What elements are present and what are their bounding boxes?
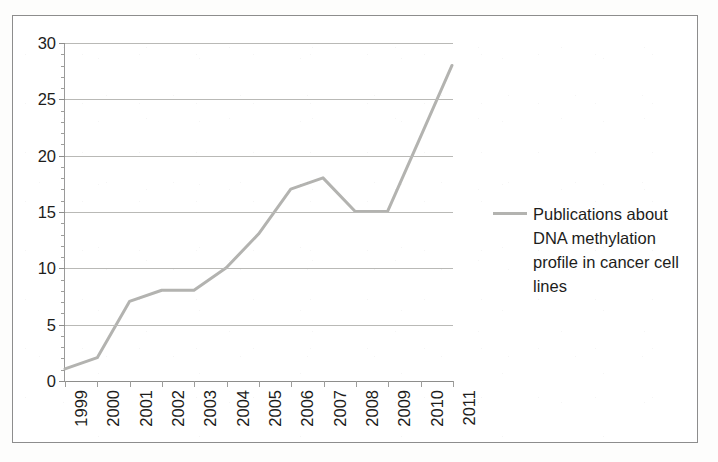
y-axis-major-tick xyxy=(59,325,65,326)
x-axis-tick-label: 2009 xyxy=(395,390,414,427)
legend-entry-label: Publications about DNA methylation profi… xyxy=(533,202,691,298)
y-axis-minor-tick xyxy=(61,167,65,168)
gridline-y-5 xyxy=(65,325,453,326)
x-axis-tick-label: 2002 xyxy=(169,390,188,427)
y-axis-minor-tick xyxy=(61,111,65,112)
y-axis-minor-tick xyxy=(61,122,65,123)
y-axis-major-tick xyxy=(59,43,65,44)
y-axis-minor-tick xyxy=(61,336,65,337)
x-axis-tick xyxy=(130,381,131,387)
x-axis-tick xyxy=(291,381,292,387)
chart-frame: 0510152025301999200020012002200320042005… xyxy=(12,15,698,443)
y-axis-tick-label: 10 xyxy=(38,259,56,278)
y-axis-minor-tick xyxy=(61,189,65,190)
x-axis-tick-label: 2004 xyxy=(234,390,253,427)
x-axis-tick xyxy=(324,381,325,387)
x-axis-tick xyxy=(227,381,228,387)
chart-legend: Publications about DNA methylation profi… xyxy=(493,202,693,298)
y-axis-minor-tick xyxy=(61,66,65,67)
y-axis-minor-tick xyxy=(61,133,65,134)
plot-area: 0510152025301999200020012002200320042005… xyxy=(64,43,453,381)
x-axis-tick-label: 2003 xyxy=(201,390,220,427)
gridline-y-15 xyxy=(65,212,453,213)
legend-swatch-icon xyxy=(493,212,527,215)
y-axis-tick-label: 15 xyxy=(38,203,56,222)
y-axis-tick-label: 30 xyxy=(38,34,56,53)
y-axis-minor-tick xyxy=(61,178,65,179)
y-axis-minor-tick xyxy=(61,370,65,371)
x-axis-tick xyxy=(194,381,195,387)
y-axis-minor-tick xyxy=(61,302,65,303)
y-axis-major-tick xyxy=(59,156,65,157)
y-axis-minor-tick xyxy=(61,257,65,258)
y-axis-major-tick xyxy=(59,212,65,213)
y-axis-minor-tick xyxy=(61,223,65,224)
x-axis-tick-label: 2000 xyxy=(104,390,123,427)
y-axis-minor-tick xyxy=(61,77,65,78)
y-axis-tick-label: 20 xyxy=(38,146,56,165)
x-axis-tick xyxy=(97,381,98,387)
y-axis-major-tick xyxy=(59,268,65,269)
x-axis-tick-label: 2008 xyxy=(363,390,382,427)
x-axis-tick-label: 2007 xyxy=(331,390,350,427)
plot-inner: 0510152025301999200020012002200320042005… xyxy=(64,43,453,381)
x-axis-tick xyxy=(65,381,66,387)
y-axis-minor-tick xyxy=(61,246,65,247)
series-polyline xyxy=(65,65,452,368)
y-axis-tick-label: 5 xyxy=(47,315,56,334)
y-axis-minor-tick xyxy=(61,291,65,292)
x-axis-tick-label: 2001 xyxy=(137,390,156,427)
x-axis-tick-label: 1999 xyxy=(72,390,91,427)
y-axis-minor-tick xyxy=(61,358,65,359)
x-axis-tick xyxy=(388,381,389,387)
y-axis-tick-label: 25 xyxy=(38,90,56,109)
gridline-y-30 xyxy=(65,43,453,44)
y-axis-minor-tick xyxy=(61,347,65,348)
y-axis-minor-tick xyxy=(61,313,65,314)
x-axis-tick-label: 2006 xyxy=(298,390,317,427)
y-axis-minor-tick xyxy=(61,54,65,55)
y-axis-minor-tick xyxy=(61,280,65,281)
x-axis-tick xyxy=(356,381,357,387)
y-axis-minor-tick xyxy=(61,201,65,202)
x-axis-tick xyxy=(162,381,163,387)
x-axis-tick xyxy=(421,381,422,387)
y-axis-minor-tick xyxy=(61,144,65,145)
gridline-y-25 xyxy=(65,99,453,100)
y-axis-tick-label: 0 xyxy=(47,372,56,391)
y-axis-minor-tick xyxy=(61,88,65,89)
x-axis-tick-label: 2011 xyxy=(460,390,479,425)
x-axis-tick xyxy=(453,381,454,387)
x-axis-tick-label: 2010 xyxy=(428,390,447,427)
x-axis-tick xyxy=(259,381,260,387)
gridline-y-10 xyxy=(65,268,453,269)
y-axis-major-tick xyxy=(59,99,65,100)
x-axis-tick-label: 2005 xyxy=(266,390,285,427)
gridline-y-20 xyxy=(65,156,453,157)
y-axis-minor-tick xyxy=(61,235,65,236)
